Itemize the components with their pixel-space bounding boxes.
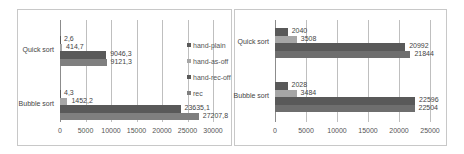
- x-tick-label: 5000: [78, 127, 94, 134]
- x-tick-label: 0: [58, 127, 62, 134]
- data-label: 23635,1: [185, 104, 210, 111]
- data-label: 9046,3: [110, 50, 131, 57]
- x-tick-label: 15000: [127, 127, 146, 134]
- x-tick-label: 10000: [327, 127, 346, 134]
- bar: [60, 113, 199, 121]
- x-tick-label: 15000: [358, 127, 377, 134]
- legend-label: hand-plain: [193, 42, 226, 49]
- data-label: 9121,3: [111, 58, 132, 65]
- data-label: 2,6: [64, 35, 74, 42]
- x-tick-label: 20000: [389, 127, 408, 134]
- bar: [275, 36, 297, 44]
- data-label: 22596: [419, 96, 438, 103]
- bar: [275, 43, 405, 51]
- bar: [60, 36, 61, 44]
- x-tick-label: 0: [273, 127, 277, 134]
- bar: [275, 97, 415, 105]
- left-chart-legend: hand-plainhand-as-offhand-rec-offrec: [187, 37, 231, 101]
- x-tick-label: 5000: [298, 127, 314, 134]
- bar: [275, 105, 415, 113]
- bar: [275, 51, 410, 59]
- bar: [60, 90, 61, 98]
- data-label: 2028: [292, 81, 308, 88]
- data-label: 2040: [292, 27, 308, 34]
- data-label: 27207,8: [203, 112, 228, 119]
- bar: [60, 59, 107, 67]
- legend-swatch-icon: [187, 91, 191, 95]
- bar: [60, 51, 106, 59]
- data-label: 1452,2: [71, 97, 92, 104]
- category-label: Quick sort: [237, 38, 269, 45]
- right-chart-plot: 204035082099221844202834842259622504: [275, 20, 430, 122]
- data-label: 414,7: [66, 43, 84, 50]
- data-label: 3508: [301, 35, 317, 42]
- legend-item: hand-rec-off: [187, 69, 231, 85]
- bar: [60, 44, 62, 52]
- x-tick-label: 25000: [420, 127, 439, 134]
- x-tick-label: 25000: [178, 127, 197, 134]
- legend-swatch-icon: [187, 75, 191, 79]
- x-tick-label: 20000: [152, 127, 171, 134]
- legend-item: hand-plain: [187, 37, 231, 53]
- x-tick-label: 10000: [101, 127, 120, 134]
- data-label: 22504: [419, 104, 438, 111]
- x-tick-label: 30000: [203, 127, 222, 134]
- bar: [60, 105, 181, 113]
- legend-item: hand-as-off: [187, 53, 231, 69]
- category-label: Bubble sort: [19, 100, 54, 107]
- category-label: Quick sort: [22, 46, 54, 53]
- bar: [275, 28, 288, 36]
- bar: [275, 82, 288, 90]
- data-label: 21844: [414, 50, 433, 57]
- bar: [275, 90, 297, 98]
- legend-item: rec: [187, 85, 231, 101]
- legend-swatch-icon: [187, 59, 191, 63]
- bar: [60, 98, 67, 106]
- legend-label: hand-as-off: [193, 58, 228, 65]
- legend-label: rec: [193, 90, 203, 97]
- data-label: 4,3: [64, 89, 74, 96]
- data-label: 20992: [409, 42, 428, 49]
- legend-label: hand-rec-off: [193, 74, 231, 81]
- data-label: 3484: [301, 89, 317, 96]
- category-label: Bubble sort: [234, 92, 269, 99]
- legend-swatch-icon: [187, 43, 191, 47]
